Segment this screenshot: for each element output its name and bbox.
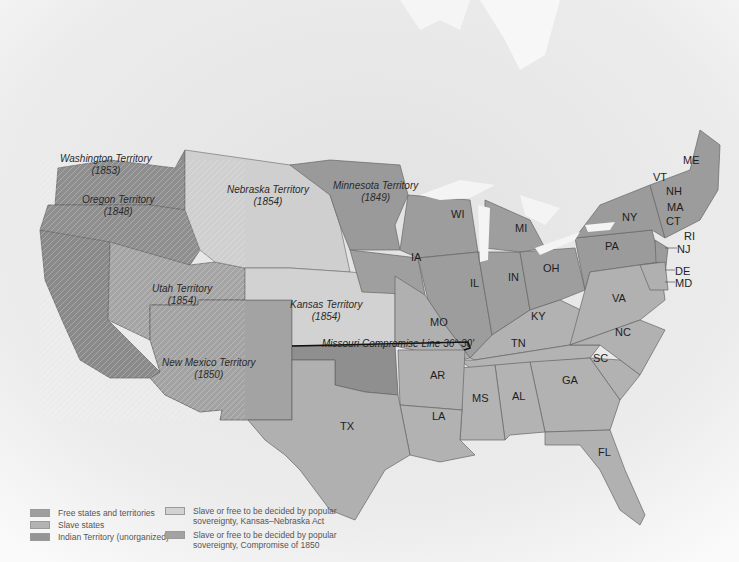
label-washington-territory: Washington Territory(1853) (60, 153, 152, 177)
label-state-md: MD (675, 277, 692, 289)
label-state-in: IN (508, 271, 519, 283)
label-state-mi: MI (515, 222, 527, 234)
legend-item-slave: Slave states (30, 520, 104, 530)
legend-item-indian: Indian Territory (unorganized) (30, 532, 169, 542)
label-state-nh: NH (666, 185, 682, 197)
label-new-mexico-territory: New Mexico Territory(1850) (162, 357, 256, 381)
label-state-ma: MA (667, 201, 684, 213)
legend-swatch-kansas-nebraska (165, 507, 185, 515)
legend-label: Slave or free to be decided by popularso… (193, 506, 337, 526)
label-state-ny: NY (622, 211, 637, 223)
label-state-vt: VT (653, 171, 667, 183)
legend-swatch-slave (30, 521, 50, 529)
label-state-pa: PA (605, 240, 619, 252)
legend-item-compromise-1850: Slave or free to be decided by popularso… (165, 530, 337, 550)
legend-swatch-compromise-1850 (165, 531, 185, 539)
label-state-nj: NJ (677, 243, 690, 255)
label-utah-territory: Utah Territory(1854) (152, 283, 212, 307)
legend-label: Slave states (58, 520, 104, 530)
label-state-ct: CT (666, 215, 681, 227)
label-state-mo: MO (430, 316, 448, 328)
label-state-ms: MS (472, 392, 489, 404)
legend-label: Slave or free to be decided by popularso… (193, 530, 337, 550)
label-nebraska-territory: Nebraska Territory(1854) (227, 184, 309, 208)
label-state-nc: NC (615, 326, 631, 338)
label-minnesota-territory: Minnesota Territory(1849) (333, 180, 418, 204)
label-state-la: LA (432, 410, 445, 422)
region-wi (400, 195, 478, 258)
label-state-ar: AR (430, 369, 445, 381)
legend-label: Free states and territories (58, 508, 155, 518)
label-state-ky: KY (531, 310, 546, 322)
label-state-al: AL (512, 390, 525, 402)
label-state-oh: OH (543, 262, 560, 274)
label-state-il: IL (470, 277, 479, 289)
map-canvas (0, 0, 739, 562)
label-state-fl: FL (598, 446, 611, 458)
label-missouri-compromise-line: Missouri Compromise Line 36° 30′ (322, 338, 474, 349)
label-state-va: VA (612, 292, 626, 304)
lake-michigan (478, 205, 490, 262)
label-state-ia: IA (411, 251, 421, 263)
label-state-tn: TN (511, 337, 526, 349)
label-state-sc: SC (593, 352, 608, 364)
label-state-wi: WI (451, 208, 464, 220)
label-state-me: ME (683, 154, 700, 166)
legend-item-free: Free states and territories (30, 508, 155, 518)
label-kansas-territory: Kansas Territory(1854) (290, 299, 362, 323)
label-oregon-territory: Oregon Territory(1848) (82, 194, 154, 218)
legend-item-kansas-nebraska: Slave or free to be decided by popularso… (165, 506, 337, 526)
legend-label: Indian Territory (unorganized) (58, 532, 169, 542)
legend-swatch-free (30, 509, 50, 517)
label-state-ri: RI (684, 230, 695, 242)
label-state-tx: TX (340, 420, 354, 432)
legend-swatch-indian (30, 533, 50, 541)
label-state-ga: GA (562, 374, 578, 386)
label-state-de: DE (675, 265, 690, 277)
